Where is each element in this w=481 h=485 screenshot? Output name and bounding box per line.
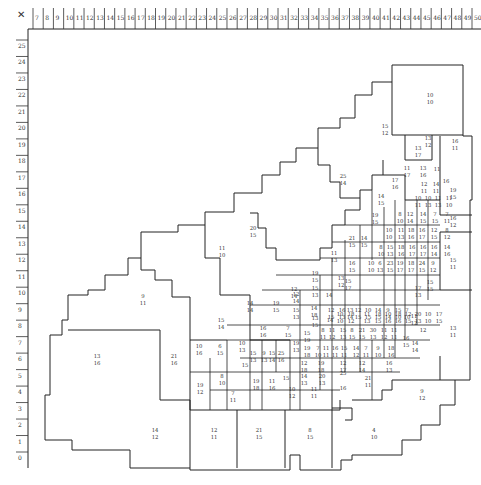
parcel-label: 911 [140, 293, 147, 306]
parcel-label: 1616 [260, 325, 267, 338]
svg-text:12: 12 [421, 181, 428, 187]
svg-text:15: 15 [355, 314, 362, 320]
parcel-label: 1215 [355, 307, 362, 320]
svg-text:16: 16 [409, 244, 416, 250]
svg-text:8: 8 [308, 427, 312, 433]
svg-text:8: 8 [379, 244, 383, 250]
svg-text:15: 15 [217, 350, 224, 356]
x-tick-label: 13 [96, 14, 104, 21]
parcel-label: 12 [420, 327, 427, 333]
svg-text:18: 18 [304, 352, 311, 358]
svg-text:13: 13 [386, 367, 393, 373]
svg-text:9: 9 [262, 350, 266, 356]
parcel-label: 912 [419, 388, 426, 401]
svg-text:16: 16 [392, 184, 399, 190]
svg-text:25: 25 [340, 173, 347, 179]
svg-text:19: 19 [318, 360, 325, 366]
parcel-label: 812 [444, 227, 451, 240]
svg-text:10: 10 [425, 195, 432, 201]
parcel-label: 1010 [425, 311, 432, 324]
svg-text:14: 14 [293, 298, 300, 304]
svg-text:17: 17 [419, 234, 426, 240]
y-tick-label: 19 [18, 141, 26, 148]
svg-text:15: 15 [431, 234, 438, 240]
parcel-label: 1011 [415, 195, 422, 208]
svg-text:15: 15 [273, 307, 280, 313]
x-axis-ticks: 7891011121314151617181920212223242526272… [33, 8, 481, 29]
parcel-label: 1515 [427, 279, 434, 292]
parcel-label: 1918 [304, 345, 311, 358]
svg-text:9: 9 [431, 260, 435, 266]
y-tick-label: 0 [18, 454, 22, 461]
svg-text:10: 10 [427, 92, 434, 98]
svg-text:15: 15 [365, 314, 372, 320]
svg-text:10: 10 [386, 234, 393, 240]
parcel-label: 1110 [446, 195, 453, 208]
svg-text:12: 12 [293, 291, 300, 297]
svg-text:10: 10 [375, 352, 382, 358]
svg-text:11: 11 [211, 434, 218, 440]
parcel-label: 1511 [450, 257, 457, 270]
parcel-label: 1613 [339, 307, 346, 320]
svg-text:15: 15 [269, 350, 276, 356]
parcel-label: 1615 [349, 260, 356, 273]
svg-text:24: 24 [419, 260, 426, 266]
parcel-label: 1816 [398, 244, 405, 257]
svg-text:10: 10 [219, 252, 226, 258]
svg-text:21: 21 [171, 353, 178, 359]
parcel-label: 1113 [435, 195, 442, 208]
svg-text:10: 10 [196, 343, 203, 349]
svg-text:13: 13 [250, 357, 257, 363]
svg-text:7: 7 [433, 211, 436, 217]
parcel-label: 1617 [419, 227, 426, 240]
svg-text:14: 14 [385, 314, 392, 320]
parcel-label: 1010 [386, 227, 393, 240]
svg-text:7: 7 [231, 390, 234, 396]
parcel-label: 2116 [171, 353, 178, 366]
svg-text:21: 21 [365, 375, 372, 381]
svg-text:11: 11 [365, 382, 372, 388]
svg-text:15: 15 [387, 244, 394, 250]
parcel-label: 615 [217, 343, 224, 356]
svg-text:13: 13 [331, 257, 338, 263]
parcel-label: 1215 [328, 307, 335, 320]
svg-text:17: 17 [392, 177, 399, 183]
parcel-label: 1611 [332, 345, 339, 358]
svg-text:18: 18 [311, 312, 318, 318]
svg-text:7: 7 [445, 211, 448, 217]
svg-text:10: 10 [315, 352, 322, 358]
svg-text:17: 17 [404, 172, 411, 178]
parcel-label: 1915 [372, 212, 379, 225]
y-tick-label: 22 [18, 91, 26, 98]
parcel-label: 1016 [196, 343, 203, 356]
svg-text:10: 10 [368, 260, 375, 266]
parcel-label: 1113 [398, 227, 405, 240]
svg-text:6: 6 [378, 260, 382, 266]
parcel-label: 1214 [293, 291, 300, 304]
svg-text:15: 15 [349, 334, 356, 340]
x-tick-label: 24 [209, 14, 217, 21]
svg-text:11: 11 [433, 188, 440, 194]
parcel-label: 1013 [239, 340, 246, 353]
svg-text:14: 14 [378, 193, 385, 199]
svg-text:8: 8 [398, 211, 402, 217]
svg-text:16: 16 [349, 260, 356, 266]
svg-text:16: 16 [171, 360, 178, 366]
svg-text:11: 11 [411, 313, 418, 319]
parcel-label: 910 [375, 345, 382, 358]
svg-text:13: 13 [312, 292, 319, 298]
svg-text:15: 15 [378, 200, 385, 206]
x-tick-label: 16 [127, 14, 135, 21]
parcel-label: 1418 [311, 305, 318, 318]
parcel-label: 711 [230, 390, 237, 403]
svg-text:12: 12 [420, 327, 427, 333]
svg-text:15: 15 [285, 332, 292, 338]
y-tick-label: 20 [18, 124, 26, 131]
parcel-label: 1012 [289, 386, 296, 399]
svg-text:15: 15 [375, 314, 382, 320]
svg-text:14: 14 [269, 357, 276, 363]
svg-text:18: 18 [408, 227, 415, 233]
svg-text:14: 14 [301, 373, 308, 379]
parcel-label: 1110 [219, 245, 226, 258]
svg-text:11: 11 [311, 393, 318, 399]
